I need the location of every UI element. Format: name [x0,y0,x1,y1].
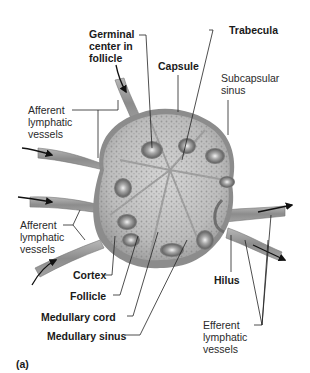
label-efferent-vessels: Efferent lymphatic vessels [203,319,247,355]
lymph-node-figure: Germinal center in follicle Capsule Trab… [0,0,310,373]
label-germinal-center: Germinal center in follicle [89,28,135,64]
label-medullary-cord: Medullary cord [41,311,116,323]
label-afferent-vessels-upper: Afferent lymphatic vessels [28,104,72,140]
label-medullary-sinus: Medullary sinus [47,330,126,342]
label-trabecula: Trabecula [229,24,278,36]
label-afferent-vessels-lower: Afferent lymphatic vessels [20,219,64,255]
label-cortex: Cortex [73,269,106,281]
label-hilus: Hilus [214,274,240,286]
label-subcapsular-sinus: Subcapsular sinus [221,72,279,96]
label-follicle: Follicle [70,290,106,302]
label-capsule: Capsule [158,60,199,72]
efferent-vessels [225,206,285,260]
panel-label: (a) [16,358,29,370]
